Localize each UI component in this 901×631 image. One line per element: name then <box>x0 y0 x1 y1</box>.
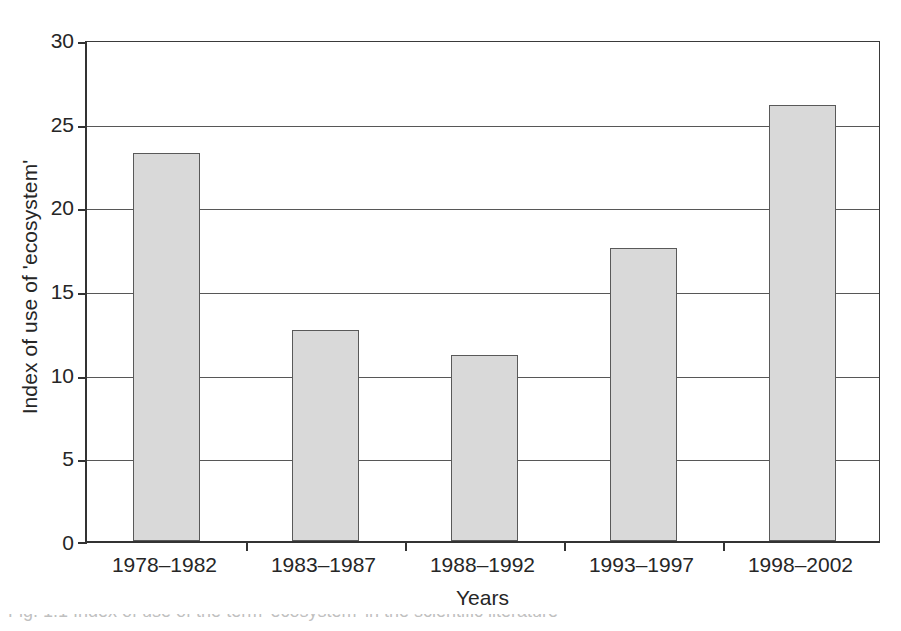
y-tickmark-5 <box>78 460 87 462</box>
bar-1988-1992 <box>451 355 518 541</box>
bar-1998-2002 <box>769 105 836 541</box>
y-tick-label-15: 15 <box>34 281 74 302</box>
y-tick-label-30: 30 <box>34 30 74 51</box>
bar-chart-figure: Index of use of 'ecosystem' 30 25 20 15 … <box>0 0 901 631</box>
x-tick-label-1983-1987: 1983–1987 <box>244 552 403 577</box>
x-tickmark-4 <box>723 542 725 551</box>
y-axis-tick-labels: 30 25 20 15 10 5 0 <box>26 0 74 631</box>
figure-caption-clipped: Fig. 1.1 Index of use of the term 'ecosy… <box>0 614 901 631</box>
y-tick-label-25: 25 <box>34 114 74 135</box>
y-tickmark-25 <box>78 126 87 128</box>
bar-1978-1982 <box>133 153 200 541</box>
figure-caption-text: Fig. 1.1 Index of use of the term 'ecosy… <box>8 614 558 622</box>
x-tick-label-1998-2002: 1998–2002 <box>721 552 880 577</box>
y-tick-label-0: 0 <box>34 532 74 553</box>
y-tickmark-20 <box>78 209 87 211</box>
x-tick-label-1978-1982: 1978–1982 <box>85 552 244 577</box>
x-tickmark-2 <box>405 542 407 551</box>
bar-1983-1987 <box>292 330 359 541</box>
y-tick-label-10: 10 <box>34 365 74 386</box>
y-tick-label-20: 20 <box>34 197 74 218</box>
y-tick-label-5: 5 <box>34 448 74 469</box>
y-tickmark-10 <box>78 377 87 379</box>
y-tickmark-30 <box>78 42 87 44</box>
x-tickmark-1 <box>246 542 248 551</box>
bar-1993-1997 <box>610 248 677 541</box>
plot-area <box>85 41 880 543</box>
y-tickmark-15 <box>78 293 87 295</box>
x-tick-label-1993-1997: 1993–1997 <box>562 552 721 577</box>
x-axis-tick-labels: 1978–1982 1983–1987 1988–1992 1993–1997 … <box>85 552 880 582</box>
x-tick-label-1988-1992: 1988–1992 <box>403 552 562 577</box>
bar-series <box>87 42 879 541</box>
x-axis-title: Years <box>85 586 880 610</box>
y-tickmark-0 <box>78 542 87 544</box>
x-tickmark-3 <box>564 542 566 551</box>
